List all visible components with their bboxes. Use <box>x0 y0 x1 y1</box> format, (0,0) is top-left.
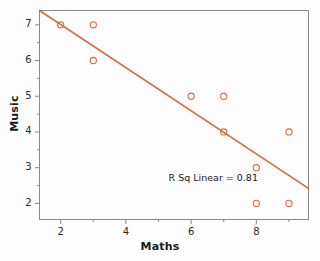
x-tick-label: 4 <box>114 226 138 237</box>
data-point-marker <box>286 200 292 206</box>
x-axis-title: Maths <box>0 240 320 253</box>
data-point-marker <box>90 57 96 63</box>
y-tick-label: 7 <box>8 18 32 29</box>
x-tick-label: 2 <box>49 226 73 237</box>
data-point-marker <box>221 93 227 99</box>
fit-line-segment <box>40 11 309 189</box>
regression-line <box>40 11 309 189</box>
data-point-marker <box>253 200 259 206</box>
y-tick-label: 3 <box>8 161 32 172</box>
y-axis-ticks <box>35 25 40 204</box>
x-axis-ticks <box>61 220 289 225</box>
plot-border <box>40 11 309 220</box>
x-tick-label: 8 <box>244 226 268 237</box>
y-tick-label: 2 <box>8 197 32 208</box>
data-point-marker <box>90 22 96 28</box>
data-point-marker <box>253 165 259 171</box>
x-tick-label: 6 <box>179 226 203 237</box>
r-squared-annotation: R Sq Linear = 0.81 <box>169 172 258 183</box>
y-axis-title: Music <box>8 84 21 144</box>
data-point-marker <box>188 93 194 99</box>
y-tick-label: 6 <box>8 54 32 65</box>
plot-canvas <box>0 0 320 261</box>
data-point-marker <box>286 129 292 135</box>
scatter-plot-figure: 2468 234567 Maths Music R Sq Linear = 0.… <box>0 0 320 261</box>
plot-frame <box>40 11 309 220</box>
